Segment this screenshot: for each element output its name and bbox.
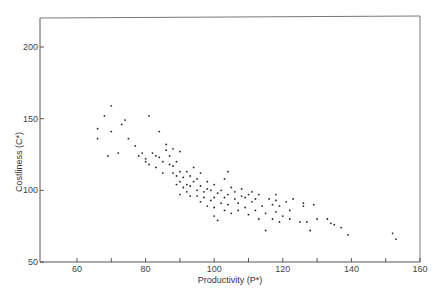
- y-axis-ticks: 50100150200: [23, 42, 44, 267]
- data-point: [395, 238, 397, 240]
- data-point: [162, 172, 164, 174]
- data-point: [176, 175, 178, 177]
- data-point: [124, 119, 126, 121]
- data-point: [217, 220, 219, 222]
- data-point: [155, 167, 157, 169]
- data-point: [309, 230, 311, 232]
- data-point: [179, 194, 181, 196]
- data-point: [285, 201, 287, 203]
- data-point: [127, 138, 129, 140]
- data-point: [347, 234, 349, 236]
- data-point: [275, 211, 277, 213]
- data-point: [213, 215, 215, 217]
- data-point: [172, 148, 174, 150]
- data-point: [189, 195, 191, 197]
- data-point: [158, 131, 160, 133]
- data-point: [179, 171, 181, 173]
- data-point: [203, 191, 205, 193]
- data-point: [234, 198, 236, 200]
- data-point: [110, 105, 112, 107]
- data-point: [196, 195, 198, 197]
- data-point: [210, 200, 212, 202]
- data-point: [165, 149, 167, 151]
- data-point: [275, 200, 277, 202]
- data-point: [148, 115, 150, 117]
- data-point: [255, 210, 257, 212]
- data-point: [340, 227, 342, 229]
- x-axis-ticks: 6080100120140160: [72, 258, 428, 274]
- data-point: [145, 158, 147, 160]
- data-point: [186, 171, 188, 173]
- data-point: [279, 205, 281, 207]
- x-tick-label: 120: [275, 264, 290, 274]
- data-point: [392, 232, 394, 234]
- data-point: [316, 218, 318, 220]
- data-point: [107, 155, 109, 157]
- data-point: [230, 187, 232, 189]
- data-point: [121, 124, 123, 126]
- data-point: [244, 207, 246, 209]
- data-point: [200, 172, 202, 174]
- data-point: [258, 194, 260, 196]
- y-tick-label: 150: [23, 114, 38, 124]
- data-point: [289, 218, 291, 220]
- data-point: [279, 221, 281, 223]
- data-point: [169, 155, 171, 157]
- data-point: [206, 188, 208, 190]
- data-point: [104, 115, 106, 117]
- y-axis-title: Costliness (C*): [14, 132, 24, 192]
- data-point: [176, 184, 178, 186]
- data-point: [189, 175, 191, 177]
- data-point: [272, 218, 274, 220]
- data-point: [172, 165, 174, 167]
- data-point: [282, 215, 284, 217]
- data-point: [210, 189, 212, 191]
- y-tick-label: 50: [28, 257, 38, 267]
- data-point: [244, 197, 246, 199]
- x-tick-label: 100: [207, 264, 222, 274]
- data-point: [313, 204, 315, 206]
- data-point: [196, 178, 198, 180]
- data-point: [200, 201, 202, 203]
- data-point: [110, 131, 112, 133]
- data-point: [220, 189, 222, 191]
- data-point: [213, 184, 215, 186]
- data-point: [268, 198, 270, 200]
- data-point: [165, 144, 167, 146]
- data-point: [196, 189, 198, 191]
- data-point: [97, 128, 99, 130]
- data-point: [176, 161, 178, 163]
- data-point: [158, 157, 160, 159]
- data-point: [217, 192, 219, 194]
- data-point: [200, 185, 202, 187]
- data-point: [220, 202, 222, 204]
- data-point: [248, 194, 250, 196]
- data-point: [182, 177, 184, 179]
- data-point: [152, 152, 154, 154]
- data-point: [134, 145, 136, 147]
- data-point: [303, 202, 305, 204]
- data-point: [213, 197, 215, 199]
- data-point: [189, 185, 191, 187]
- data-point: [275, 194, 277, 196]
- data-point: [330, 222, 332, 224]
- data-point: [206, 181, 208, 183]
- scatter-chart: 6080100120140160 50100150200 Productivit…: [0, 0, 440, 294]
- data-point: [224, 178, 226, 180]
- data-point: [237, 202, 239, 204]
- data-point: [224, 210, 226, 212]
- data-point: [193, 181, 195, 183]
- data-point: [172, 172, 174, 174]
- data-point: [138, 155, 140, 157]
- data-point: [333, 224, 335, 226]
- x-axis-title: Productivity (P*): [198, 275, 263, 285]
- data-point: [292, 198, 294, 200]
- data-point: [237, 210, 239, 212]
- data-point: [186, 191, 188, 193]
- data-point: [162, 161, 164, 163]
- data-point: [234, 191, 236, 193]
- data-point: [261, 205, 263, 207]
- data-point: [272, 204, 274, 206]
- data-point: [117, 152, 119, 154]
- data-point: [258, 218, 260, 220]
